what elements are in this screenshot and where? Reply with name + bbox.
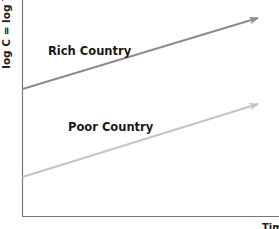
y-axis-label: log C = log Y xyxy=(0,0,13,62)
chart-canvas xyxy=(0,0,279,229)
x-axis-label: Time xyxy=(262,222,279,229)
y-axis-label-text: log C = log Y xyxy=(0,0,12,69)
poor-country-line xyxy=(23,104,259,177)
rich-country-label: Rich Country xyxy=(48,44,131,58)
poor-country-label: Poor Country xyxy=(68,120,153,134)
